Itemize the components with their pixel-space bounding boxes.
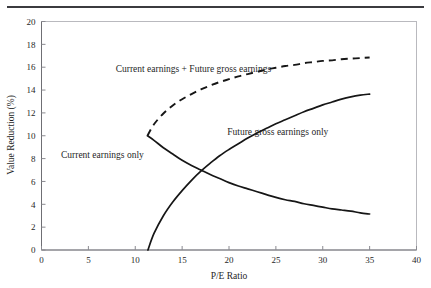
y-axis-tick-labels: 02468101214161820 — [27, 17, 37, 256]
x-tick-label: 10 — [131, 255, 141, 265]
y-tick-label: 16 — [27, 62, 37, 72]
x-axis-ticks — [42, 246, 417, 250]
x-tick-label: 20 — [225, 255, 235, 265]
figure-container: 02468101214161820 0510152025303540 Curre… — [0, 0, 431, 288]
x-tick-label: 25 — [271, 255, 281, 265]
y-tick-label: 14 — [27, 85, 37, 95]
x-axis-title: P/E Ratio — [211, 271, 248, 281]
y-tick-label: 20 — [27, 17, 37, 27]
annotation-current-plus-future-gross-earnings: Current earnings + Future gross earnings — [116, 64, 272, 74]
y-tick-label: 12 — [27, 108, 36, 118]
annotation-future-gross-earnings-only: Future gross earnings only — [227, 127, 328, 137]
series-current-earnings-only — [147, 136, 369, 214]
x-tick-label: 40 — [412, 255, 422, 265]
x-tick-label: 35 — [365, 255, 375, 265]
x-tick-label: 0 — [39, 255, 44, 265]
y-tick-label: 2 — [31, 222, 36, 232]
y-tick-label: 6 — [31, 177, 36, 187]
y-axis-title: Value Reduction (%) — [6, 95, 17, 175]
value-reduction-vs-pe-ratio-chart: 02468101214161820 0510152025303540 Curre… — [0, 0, 431, 288]
x-tick-label: 5 — [86, 255, 91, 265]
y-axis-ticks — [42, 22, 46, 251]
y-tick-label: 4 — [31, 200, 36, 210]
y-tick-label: 0 — [31, 245, 36, 255]
y-tick-label: 8 — [31, 154, 36, 164]
annotation-current-earnings-only: Current earnings only — [61, 150, 144, 160]
y-tick-label: 10 — [27, 131, 37, 141]
x-tick-label: 15 — [178, 255, 188, 265]
x-tick-label: 30 — [318, 255, 328, 265]
series-future-gross-earnings-only — [148, 94, 370, 250]
x-axis-tick-labels: 0510152025303540 — [39, 255, 421, 265]
y-tick-label: 18 — [27, 40, 37, 50]
